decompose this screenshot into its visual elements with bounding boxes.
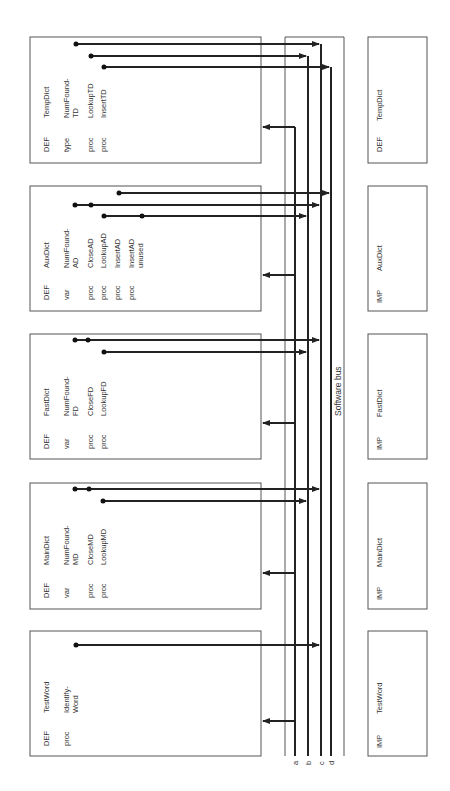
auxdict-connections — [73, 191, 330, 276]
bus-label-a: a — [291, 760, 300, 765]
svg-text:DEF: DEF — [42, 285, 51, 300]
svg-text:var: var — [62, 289, 71, 300]
svg-text:FastDict: FastDict — [42, 388, 51, 416]
svg-text:DEF: DEF — [42, 434, 51, 449]
svg-text:IMP: IMP — [375, 290, 384, 303]
entry-name: InsertTD — [99, 89, 108, 118]
svg-text:proc: proc — [99, 583, 108, 598]
svg-text:DEF: DEF — [375, 137, 384, 152]
entry-name: LookupTD — [86, 83, 95, 118]
svg-text:CloseFD: CloseFD — [86, 386, 95, 416]
def-text-tempdict: DEF TempDict type NumFound- TD proc Look… — [42, 78, 108, 152]
svg-text:AuxDict: AuxDict — [375, 244, 384, 271]
entry-kind: proc — [99, 137, 108, 152]
svg-text:proc: proc — [127, 285, 136, 300]
tempdict-connections — [74, 42, 330, 128]
testword-connections — [74, 643, 320, 722]
def-text-auxdict: DEF AuxDict var NumFound- AD proc CloseA… — [42, 228, 145, 300]
def-text-testword: DEF TestWord proc Identify- Word — [42, 681, 80, 746]
svg-text:TempDict: TempDict — [375, 89, 384, 121]
svg-text:var: var — [62, 587, 71, 598]
svg-text:FastDict: FastDict — [375, 389, 384, 417]
svg-text:DEF: DEF — [42, 731, 51, 746]
svg-text:Identify-: Identify- — [62, 686, 71, 713]
svg-text:AuxDict: AuxDict — [42, 241, 51, 268]
svg-text:CloseAD: CloseAD — [86, 238, 95, 268]
def-text-maindict: DEF MainDict var NumFound- MD proc Close… — [42, 525, 108, 598]
svg-text:MD: MD — [71, 553, 80, 565]
svg-text:InsertAD: InsertAD — [127, 238, 136, 268]
svg-text:proc: proc — [62, 731, 71, 746]
svg-text:Word: Word — [71, 695, 80, 713]
svg-text:NumFound-: NumFound- — [62, 228, 71, 268]
svg-text:IMP: IMP — [375, 437, 384, 450]
entry-kind: type — [62, 138, 71, 152]
svg-text:NumFound-: NumFound- — [62, 525, 71, 565]
svg-text:proc: proc — [99, 434, 108, 449]
imp-text: DEF TempDict IMP AuxDict IMP FastDict IM… — [375, 89, 384, 748]
bus-label-c: c — [317, 761, 326, 765]
svg-text:MainDict: MainDict — [375, 537, 384, 567]
svg-text:unused: unused — [136, 243, 145, 268]
module-name: TempDict — [42, 86, 51, 118]
svg-text:proc: proc — [86, 583, 95, 598]
svg-text:IMP: IMP — [375, 587, 384, 600]
bus-line-labels: a b c d — [291, 760, 336, 765]
software-bus-label: Software bus — [333, 366, 343, 416]
svg-text:proc: proc — [86, 434, 95, 449]
entry-name2: TD — [71, 107, 80, 118]
svg-text:DEF: DEF — [42, 583, 51, 598]
bus-label-d: d — [327, 761, 336, 765]
svg-text:LookupAD: LookupAD — [99, 232, 108, 268]
svg-text:CloseMD: CloseMD — [86, 534, 95, 565]
software-bus-diagram: a b c d Software bus — [0, 0, 450, 791]
entry-kind: proc — [86, 137, 95, 152]
svg-text:proc: proc — [86, 285, 95, 300]
svg-text:MainDict: MainDict — [42, 535, 51, 565]
svg-text:AD: AD — [71, 257, 80, 268]
keyword: DEF — [42, 137, 51, 152]
def-text-fastdict: DEF FastDict var NumFound- FD proc Close… — [42, 376, 108, 449]
bus-label-b: b — [304, 761, 313, 765]
svg-text:InsertAD: InsertAD — [113, 238, 122, 268]
maindict-connections — [73, 487, 320, 574]
svg-text:TestWord: TestWord — [42, 681, 51, 713]
svg-text:var: var — [62, 438, 71, 449]
svg-text:NumFound-: NumFound- — [62, 376, 71, 416]
svg-text:FD: FD — [71, 405, 80, 416]
fastdict-connections — [73, 338, 320, 424]
entry-name: NumFound- — [62, 78, 71, 118]
svg-text:proc: proc — [99, 285, 108, 300]
svg-text:IMP: IMP — [375, 735, 384, 748]
svg-text:LookupFD: LookupFD — [99, 381, 108, 416]
svg-text:TestWord: TestWord — [375, 682, 384, 714]
svg-text:LookupMD: LookupMD — [99, 528, 108, 565]
svg-text:proc: proc — [113, 285, 122, 300]
